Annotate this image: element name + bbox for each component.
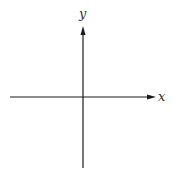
y-axis-arrow-icon [81, 26, 86, 35]
y-axis-label: y [78, 6, 87, 21]
x-axis-label: x [158, 89, 166, 104]
coordinate-axes: y x [0, 0, 177, 176]
x-axis-arrow-icon [147, 95, 156, 100]
